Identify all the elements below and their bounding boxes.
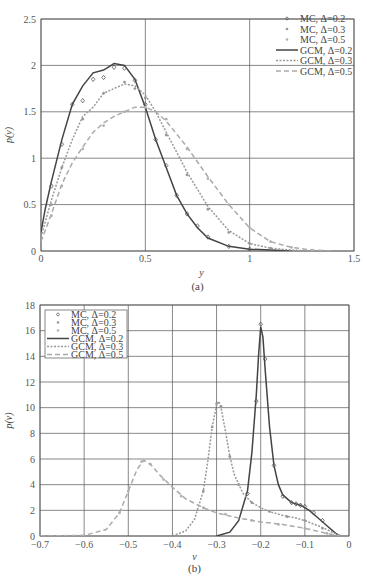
legend-label: GCM, Δ=0.2 xyxy=(300,45,352,56)
series-line xyxy=(217,327,341,536)
legend-label: GCM, Δ=0.3 xyxy=(300,55,352,66)
caption: (b) xyxy=(188,562,201,575)
mc-marker xyxy=(60,185,63,188)
mc-marker xyxy=(202,490,205,493)
legend-marker-icon xyxy=(286,28,289,31)
mc-marker xyxy=(290,246,293,249)
legend-label: MC, Δ=0.2 xyxy=(300,13,345,24)
x-tick-label: −0.3 xyxy=(208,539,226,550)
y-tick-label: 0.5 xyxy=(24,199,37,210)
legend-label: MC, Δ=0.3 xyxy=(300,24,345,35)
y-tick-label: 8 xyxy=(30,428,35,439)
mc-marker xyxy=(81,118,84,121)
legend-label: GCM, Δ=0.5 xyxy=(71,349,123,360)
mc-marker xyxy=(303,527,306,530)
series-line xyxy=(41,64,291,251)
mc-marker xyxy=(165,118,168,121)
y-tick-label: 6 xyxy=(30,454,35,465)
mc-marker xyxy=(277,523,280,526)
mc-marker xyxy=(207,208,210,211)
mc-marker xyxy=(269,240,272,243)
mc-marker xyxy=(207,177,210,180)
mc-marker xyxy=(102,124,105,127)
x-tick-label: 1.5 xyxy=(348,253,361,264)
mc-marker xyxy=(321,527,324,530)
mc-marker xyxy=(248,226,251,229)
mc-marker xyxy=(50,214,53,217)
y-tick-label: 2 xyxy=(30,505,35,516)
mc-marker xyxy=(144,106,147,109)
y-tick-label: 1 xyxy=(31,153,36,164)
y-tick-label: 0 xyxy=(31,246,36,257)
mc-marker xyxy=(81,148,84,151)
mc-marker xyxy=(127,490,130,493)
y-tick-label: 1.5 xyxy=(24,106,37,117)
mc-marker xyxy=(123,81,126,84)
chart-a: 00.511.500.511.522.5y(a)p(y)MC, Δ=0.2MC,… xyxy=(3,13,360,293)
series-line xyxy=(41,84,312,251)
mc-marker xyxy=(180,495,183,498)
legend: MC, Δ=0.2MC, Δ=0.3MC, Δ=0.5GCM, Δ=0.2GCM… xyxy=(45,309,127,360)
legend-marker-icon xyxy=(286,38,289,41)
mc-marker xyxy=(50,203,53,206)
x-tick-label: −0.5 xyxy=(119,539,137,550)
x-axis-label: y xyxy=(198,267,204,278)
mc-marker xyxy=(186,174,189,177)
y-tick-label: 10 xyxy=(25,402,35,413)
mc-marker xyxy=(215,402,218,405)
mc-marker xyxy=(140,460,143,463)
caption: (a) xyxy=(191,280,204,293)
mc-marker xyxy=(303,519,306,522)
x-tick-label: −0.1 xyxy=(296,539,314,550)
mc-marker xyxy=(268,510,271,513)
y-axis-label: p(v) xyxy=(3,412,15,430)
x-tick-label: 0 xyxy=(347,539,352,550)
x-axis-label: v xyxy=(192,551,197,562)
mc-marker xyxy=(326,532,329,535)
mc-marker xyxy=(224,513,227,516)
y-tick-label: 12 xyxy=(25,377,35,388)
legend-marker-icon xyxy=(57,321,60,324)
x-tick-label: −0.4 xyxy=(163,539,181,550)
legend-label: GCM, Δ=0.5 xyxy=(300,66,352,77)
y-tick-label: 16 xyxy=(25,325,35,336)
mc-marker xyxy=(237,483,240,486)
mc-marker xyxy=(134,87,137,90)
x-tick-label: 0 xyxy=(39,253,44,264)
mc-marker xyxy=(81,98,85,102)
x-tick-label: 0.5 xyxy=(139,253,152,264)
mc-marker xyxy=(220,405,223,408)
mc-marker xyxy=(211,426,214,429)
legend: MC, Δ=0.2MC, Δ=0.3MC, Δ=0.5GCM, Δ=0.2GCM… xyxy=(276,13,352,77)
mc-marker xyxy=(91,77,95,81)
y-tick-label: 2 xyxy=(31,60,36,71)
y-tick-label: 14 xyxy=(25,351,35,362)
mc-marker xyxy=(144,96,147,99)
y-tick-label: 0 xyxy=(30,531,35,542)
y-axis-label: p(y) xyxy=(3,126,15,144)
figure: 00.511.500.511.522.5y(a)p(y)MC, Δ=0.2MC,… xyxy=(0,0,367,581)
mc-marker xyxy=(165,134,168,137)
mc-marker xyxy=(269,247,272,250)
x-tick-label: 1 xyxy=(247,253,252,264)
legend-label: MC, Δ=0.5 xyxy=(300,34,345,45)
mc-marker xyxy=(227,203,230,206)
x-tick-label: −0.2 xyxy=(252,539,270,550)
mc-marker xyxy=(102,92,105,95)
mc-marker xyxy=(149,463,152,466)
mc-marker xyxy=(248,242,251,245)
mc-marker xyxy=(228,455,231,458)
y-tick-label: 18 xyxy=(25,300,35,311)
mc-marker xyxy=(250,519,253,522)
legend-marker-icon xyxy=(57,329,60,332)
mc-marker xyxy=(162,478,165,481)
mc-marker xyxy=(102,75,106,79)
mc-marker xyxy=(60,166,63,169)
mc-marker xyxy=(286,515,289,518)
mc-marker xyxy=(227,231,230,234)
y-tick-label: 4 xyxy=(30,479,35,490)
y-tick-label: 2.5 xyxy=(24,14,37,25)
mc-marker xyxy=(202,506,205,509)
x-tick-label: −0.6 xyxy=(75,539,93,550)
legend-marker-icon xyxy=(285,17,288,20)
